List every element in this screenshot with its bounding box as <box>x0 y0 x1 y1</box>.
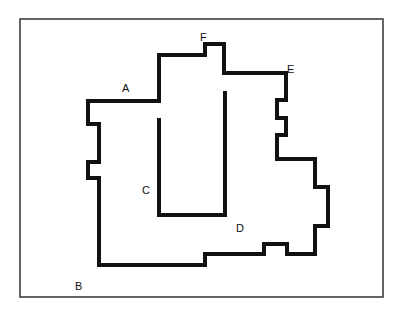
inner-u-wall <box>159 91 225 215</box>
label-f: F <box>200 31 207 43</box>
label-e: E <box>287 63 294 75</box>
outer-boundary-wall <box>88 44 328 265</box>
outer-frame <box>20 19 383 297</box>
floor-plan-diagram: A B C D E F <box>0 0 401 309</box>
label-a: A <box>122 82 130 94</box>
label-b: B <box>75 280 82 292</box>
label-c: C <box>142 184 150 196</box>
label-d: D <box>236 222 244 234</box>
